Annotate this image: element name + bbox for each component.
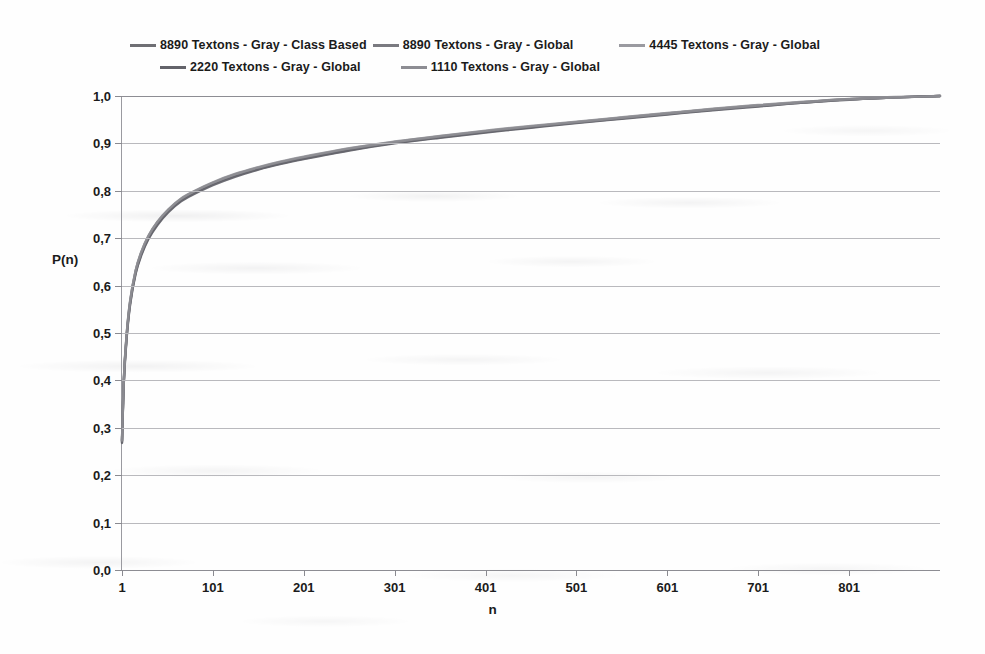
series-line	[122, 96, 940, 441]
y-gridline	[122, 523, 940, 524]
legend-row-1: 8890 Textons - Gray - Class Based8890 Te…	[130, 34, 890, 56]
y-axis-tick	[115, 570, 122, 571]
y-axis-tick-label: 0,5	[93, 326, 111, 341]
y-axis-tick-label: 0,6	[93, 278, 111, 293]
legend-swatch-icon	[373, 44, 399, 47]
y-axis-tick-label: 0,1	[93, 515, 111, 530]
legend-swatch-icon	[401, 66, 427, 69]
x-axis-tick-label: 501	[566, 580, 588, 595]
x-axis-tick	[122, 570, 123, 576]
y-gridline	[122, 570, 940, 571]
x-axis-tick-label: 201	[293, 580, 315, 595]
x-axis-tick	[304, 570, 305, 576]
legend-swatch-icon	[160, 66, 186, 69]
legend-item[interactable]: 2220 Textons - Gray - Global	[160, 60, 361, 74]
y-axis-tick	[115, 286, 122, 287]
legend-item[interactable]: 1110 Textons - Gray - Global	[401, 60, 600, 74]
y-gridline	[122, 238, 940, 239]
x-axis-tick-label: 1	[118, 580, 125, 595]
y-gridline	[122, 286, 940, 287]
legend-label: 4445 Textons - Gray - Global	[649, 38, 820, 52]
x-axis-tick-label: 701	[747, 580, 769, 595]
y-axis-tick	[115, 523, 122, 524]
y-axis-tick-label: 0,9	[93, 136, 111, 151]
y-axis-tick-label: 0,3	[93, 420, 111, 435]
y-axis-tick-label: 0,0	[93, 563, 111, 578]
x-axis-tick-label: 801	[838, 580, 860, 595]
series-line	[122, 96, 940, 441]
legend-item[interactable]: 4445 Textons - Gray - Global	[619, 38, 820, 52]
y-gridline	[122, 475, 940, 476]
legend-swatch-icon	[130, 44, 156, 47]
legend-label: 1110 Textons - Gray - Global	[431, 60, 600, 74]
y-gridline	[122, 333, 940, 334]
x-axis-tick-label: 401	[475, 580, 497, 595]
y-gridline	[122, 143, 940, 144]
y-axis-tick-label: 0,7	[93, 231, 111, 246]
y-axis-tick	[115, 96, 122, 97]
y-axis-tick-label: 0,4	[93, 373, 111, 388]
chart-legend: 8890 Textons - Gray - Class Based8890 Te…	[130, 34, 890, 78]
legend-label: 8890 Textons - Gray - Global	[403, 38, 574, 52]
y-axis-title: P(n)	[52, 252, 78, 267]
x-axis-tick-label: 301	[384, 580, 406, 595]
y-axis-tick-label: 1,0	[93, 89, 111, 104]
series-line	[122, 96, 940, 443]
plot-area: 0,00,10,20,30,40,50,60,70,80,91,01101201…	[122, 96, 940, 570]
legend-label: 8890 Textons - Gray - Class Based	[160, 38, 367, 52]
x-axis-tick-label: 101	[202, 580, 224, 595]
y-gridline	[122, 428, 940, 429]
x-axis-tick	[395, 570, 396, 576]
x-axis-tick	[849, 570, 850, 576]
y-axis-tick-label: 0,2	[93, 468, 111, 483]
y-axis-tick	[115, 143, 122, 144]
series-line	[122, 96, 940, 442]
y-gridline	[122, 380, 940, 381]
y-gridline	[122, 96, 940, 97]
y-axis-tick	[115, 428, 122, 429]
y-axis-tick	[115, 191, 122, 192]
x-axis-tick	[758, 570, 759, 576]
y-gridline	[122, 191, 940, 192]
x-axis-tick-label: 601	[656, 580, 678, 595]
legend-item[interactable]: 8890 Textons - Gray - Class Based	[130, 38, 367, 52]
y-axis-tick	[115, 380, 122, 381]
y-axis-tick-label: 0,8	[93, 183, 111, 198]
legend-row-2: 2220 Textons - Gray - Global1110 Textons…	[130, 56, 890, 78]
legend-item[interactable]: 8890 Textons - Gray - Global	[373, 38, 574, 52]
x-axis-tick	[213, 570, 214, 576]
legend-label: 2220 Textons - Gray - Global	[190, 60, 361, 74]
chart-page: 8890 Textons - Gray - Class Based8890 Te…	[0, 0, 985, 654]
x-axis-tick	[576, 570, 577, 576]
x-axis-title: n	[0, 602, 985, 617]
y-axis-tick	[115, 333, 122, 334]
series-line	[122, 96, 940, 440]
x-axis-tick	[667, 570, 668, 576]
legend-swatch-icon	[619, 44, 645, 47]
x-axis-tick	[486, 570, 487, 576]
y-axis-tick	[115, 238, 122, 239]
y-axis-tick	[115, 475, 122, 476]
